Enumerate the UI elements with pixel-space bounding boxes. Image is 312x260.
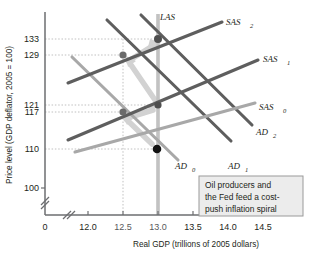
equilibrium-dot-full-employ-2	[154, 35, 162, 43]
curve-label-ad2: AD	[255, 127, 268, 137]
caption-line-2: the Fed feed a cost-	[205, 192, 280, 202]
curve-label-ad1-sub: 1	[245, 166, 248, 173]
x-tick-label-12-5: 12.5	[114, 222, 132, 232]
x-tick-label-12-0: 12.0	[79, 222, 97, 232]
curve-label-ad1: AD	[227, 161, 240, 171]
y-tick-label-133: 133	[24, 34, 39, 44]
equilibrium-dot-full-employ-1	[154, 101, 161, 108]
y-axis-title: Price level (GDP deflator, 2005 = 100)	[5, 46, 14, 184]
curve-label-sas2: SAS	[226, 17, 241, 27]
arrow-seg-3	[129, 62, 155, 100]
curve-label-sas0-sub: 0	[283, 107, 287, 114]
curve-label-ad2-sub: 2	[273, 132, 277, 139]
equilibrium-dot-recession-1	[119, 108, 126, 115]
curve-label-sas1-sub: 1	[287, 59, 290, 66]
chart-svg: 133 129 121 117 110 100 0 12.0 12.5 13.0…	[0, 0, 312, 260]
curve-label-sas1: SAS	[263, 54, 278, 64]
x-tick-label-14-5: 14.5	[254, 222, 272, 232]
caption-line-3: push inflation spiral	[205, 204, 277, 214]
x-tick-label-14-0: 14.0	[219, 222, 237, 232]
y-tick-label-100: 100	[24, 183, 39, 193]
x-tick-label-0: 0	[42, 222, 47, 232]
x-axis-title: Real GDP (trillions of 2005 dollars)	[133, 240, 259, 249]
equilibrium-dot-start	[153, 145, 162, 154]
as-ad-cost-push-inflation-chart: 133 129 121 117 110 100 0 12.0 12.5 13.0…	[0, 0, 312, 260]
y-tick-label-129: 129	[24, 50, 39, 60]
curve-label-ad0-sub: 0	[192, 166, 196, 173]
equilibrium-dot-recession-2	[119, 51, 126, 58]
caption-line-1: Oil producers and	[205, 180, 271, 190]
y-tick-label-110: 110	[25, 144, 39, 154]
curve-sas0	[75, 103, 255, 152]
curve-label-sas2-sub: 2	[250, 22, 254, 29]
curve-label-las: LAS	[159, 12, 176, 22]
curve-label-ad0: AD	[174, 161, 187, 171]
x-tick-label-13-0: 13.0	[149, 222, 167, 232]
curve-label-sas0: SAS	[259, 102, 274, 112]
y-tick-label-117: 117	[25, 107, 39, 117]
x-tick-label-13-5: 13.5	[184, 222, 202, 232]
